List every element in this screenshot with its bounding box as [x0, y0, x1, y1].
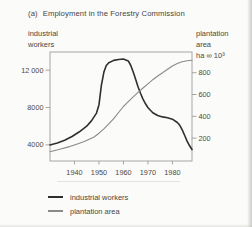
right-axis-tick-label: 600: [199, 90, 211, 99]
legend-item-plantation-area: plantation area: [48, 204, 128, 218]
x-axis-tick-label: 1960: [115, 168, 131, 177]
chart-legend: industrial workers plantation area: [48, 190, 128, 218]
industrial-workers-line-swatch: [48, 196, 63, 198]
plantation-area-line-swatch: [48, 210, 63, 211]
scan-edge-shadow-bottom: [0, 224, 252, 227]
left-axis-tick-label: 8000: [27, 103, 43, 112]
figure-card: (a)Employment in the Forestry Commission…: [0, 0, 252, 227]
left-axis-tick-label: 4000: [27, 140, 43, 149]
legend-label: plantation area: [70, 207, 120, 216]
x-axis-tick-label: 1950: [91, 168, 107, 177]
right-axis-tick-label: 200: [199, 134, 211, 143]
x-axis-tick-label: 1980: [164, 168, 180, 177]
legend-label: industrial workers: [70, 193, 128, 202]
legend-item-industrial-workers: industrial workers: [48, 190, 128, 204]
x-axis-tick-label: 1970: [140, 168, 156, 177]
right-axis-tick-label: 400: [199, 112, 211, 121]
scan-edge-shadow-right: [247, 0, 252, 227]
x-axis-tick-label: 1940: [66, 168, 82, 177]
plantation-area-line: [50, 60, 192, 152]
industrial-workers-line: [50, 59, 192, 150]
right-axis-tick-label: 800: [199, 68, 211, 77]
plot-border: [50, 52, 192, 161]
left-axis-tick-label: 12 000: [21, 66, 43, 75]
